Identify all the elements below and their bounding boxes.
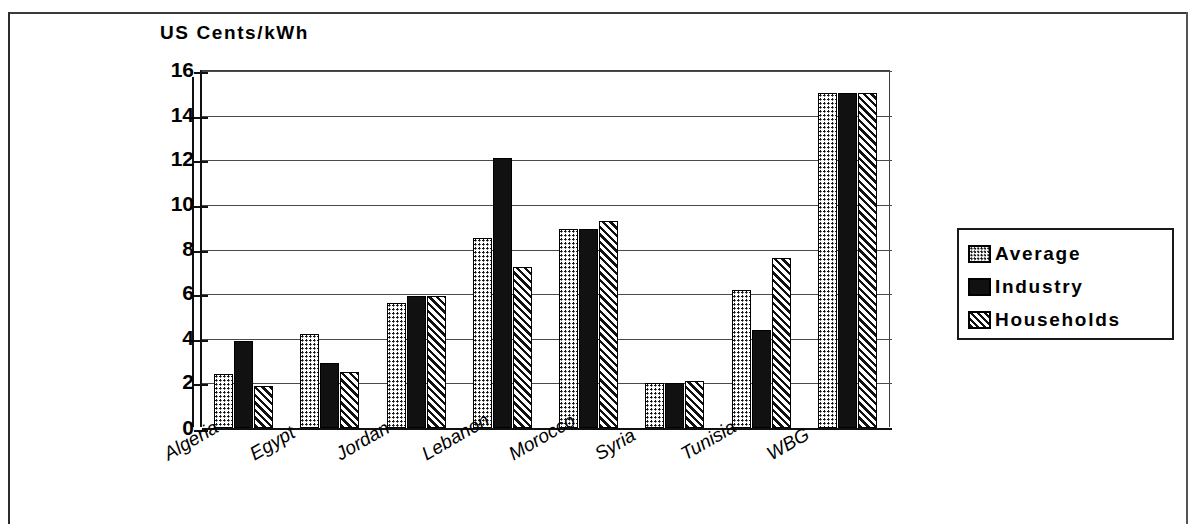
page-border-right [1186, 12, 1188, 524]
bar [300, 334, 319, 428]
legend-label: Average [995, 243, 1081, 265]
y-axis-tick-label: 14 [160, 103, 202, 127]
plot-area: 0246810121416 [200, 70, 890, 427]
bar [340, 372, 359, 428]
bar-group [559, 221, 618, 429]
bar [838, 93, 857, 428]
bar [818, 93, 837, 428]
y-axis-tick-label: 2 [160, 370, 202, 394]
bar-group [818, 93, 877, 428]
legend-item: Households [968, 303, 1166, 336]
bar [513, 267, 532, 428]
y-axis-tick-label: 12 [160, 147, 202, 171]
bar [752, 330, 771, 428]
legend-label: Households [995, 309, 1121, 331]
bar [214, 374, 233, 428]
bar-group [387, 296, 446, 428]
legend-swatch-icon [968, 311, 991, 329]
bar [407, 296, 426, 428]
y-axis-tick-label: 16 [160, 58, 202, 82]
y-axis-title: US Cents/kWh [160, 22, 309, 44]
bar [685, 381, 704, 428]
x-axis-labels: AlgeriaEgyptJordanLebanonMoroccoSyriaTun… [200, 432, 900, 522]
y-axis-tick-label: 6 [160, 281, 202, 305]
bar-group [214, 341, 273, 428]
bar [234, 341, 253, 428]
bar-group [732, 258, 791, 428]
bar [665, 383, 684, 428]
legend-label: Industry [995, 276, 1084, 298]
legend-swatch-icon [968, 245, 991, 263]
bar [858, 93, 877, 428]
bar [254, 386, 273, 428]
bar [579, 229, 598, 428]
legend-swatch-icon [968, 278, 991, 296]
bar [559, 229, 578, 428]
bar-series-container [202, 71, 892, 428]
bar-group [473, 158, 532, 428]
legend: AverageIndustryHouseholds [957, 228, 1174, 340]
legend-item: Industry [968, 270, 1166, 303]
bar [320, 363, 339, 428]
bar [473, 238, 492, 428]
bar [645, 383, 664, 428]
bar-group [645, 381, 704, 428]
bar [427, 296, 446, 428]
bar [599, 221, 618, 429]
y-axis-tick-label: 4 [160, 326, 202, 350]
bar [387, 303, 406, 428]
bar [493, 158, 512, 428]
chart-page: US Cents/kWh 0246810121416 AlgeriaEgyptJ… [0, 0, 1193, 528]
bar [772, 258, 791, 428]
y-axis-tick-label: 10 [160, 192, 202, 216]
bar [732, 290, 751, 428]
bar-group [300, 334, 359, 428]
y-axis-tick-label: 8 [160, 237, 202, 261]
legend-item: Average [968, 237, 1166, 270]
